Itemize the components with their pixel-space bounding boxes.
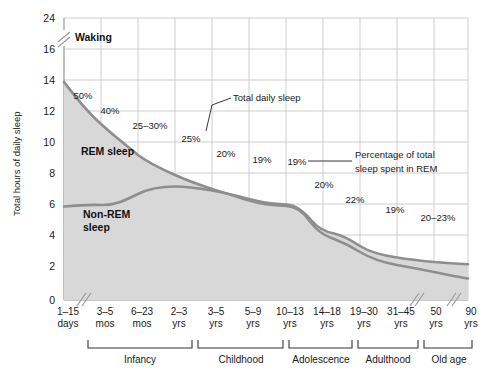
life-stage-brackets: Infancy Childhood Adolescence Adulthood … (88, 340, 472, 365)
x-tick-10-line2: yrs (429, 318, 442, 329)
x-tick-3-line2: yrs (172, 318, 185, 329)
sleep-chart-figure: Total hours of daily sleep 24 16 14 12 1… (0, 0, 496, 379)
x-tick-1-line1: 3–5 (97, 306, 114, 317)
pct-label-7: 20% (314, 179, 334, 190)
bracket-old-age (424, 340, 472, 348)
y-tick-12: 12 (43, 105, 55, 117)
pct-label-6: 19% (287, 156, 307, 167)
pct-label-3: 25% (181, 133, 201, 144)
pct-label-0: 50% (73, 90, 93, 101)
x-tick-10-line1: 50 (430, 306, 442, 317)
x-tick-2-line2: mos (133, 318, 152, 329)
rem-percentage-callout-line1: Percentage of total (355, 149, 435, 160)
y-tick-2: 2 (49, 260, 55, 272)
total-daily-sleep-callout-label: Total daily sleep (233, 92, 301, 103)
x-tick-4-line1: 3–5 (208, 306, 225, 317)
x-tick-8-line2: yrs (357, 318, 370, 329)
bracket-adolescence (289, 340, 352, 348)
pct-label-10: 20–23% (421, 212, 456, 223)
stage-label-adulthood: Adulthood (365, 354, 410, 365)
x-tick-11-line1: 90 (465, 306, 477, 317)
x-tick-6-line2: yrs (283, 318, 296, 329)
x-tick-9-line1: 31–45 (387, 306, 415, 317)
rem-sleep-region-label: REM sleep (81, 145, 134, 157)
x-axis-tick-labels: 1–15 days 3–5 mos 6–23 mos 2–3 yrs 3–5 y… (57, 306, 478, 329)
stage-label-adolescence: Adolescence (292, 354, 350, 365)
y-tick-14: 14 (43, 74, 55, 86)
pct-label-8: 22% (345, 194, 365, 205)
pct-label-4: 20% (216, 148, 236, 159)
y-tick-4: 4 (49, 229, 55, 241)
y-tick-24: 24 (43, 12, 55, 24)
pct-label-5: 19% (252, 154, 272, 165)
x-tick-9-line2: yrs (394, 318, 407, 329)
y-axis-title: Total hours of daily sleep (11, 111, 22, 216)
x-tick-7-line1: 14–18 (313, 306, 341, 317)
nonrem-sleep-region-label-line2: sleep (83, 221, 110, 233)
y-axis-tick-labels: 24 16 14 12 10 8 6 4 2 0 (43, 12, 55, 306)
x-tick-2-line1: 6–23 (131, 306, 154, 317)
x-tick-4-line2: yrs (209, 318, 222, 329)
stage-label-old-age: Old age (431, 354, 466, 365)
stage-label-infancy: Infancy (124, 354, 156, 365)
x-tick-6-line1: 10–13 (276, 306, 304, 317)
x-tick-0-line1: 1–15 (57, 306, 80, 317)
pct-label-2: 25–30% (133, 120, 168, 131)
nonrem-sleep-region-label-line1: Non-REM (83, 208, 130, 220)
rem-percentage-callout-line2: sleep spent in REM (355, 163, 437, 174)
pct-label-9: 19% (385, 204, 405, 215)
x-tick-0-line2: days (57, 318, 78, 329)
x-tick-7-line2: yrs (320, 318, 333, 329)
x-tick-1-line2: mos (96, 318, 115, 329)
bracket-childhood (198, 340, 283, 348)
bracket-adulthood (358, 340, 418, 348)
waking-region-label: Waking (75, 31, 112, 43)
bracket-infancy (88, 340, 192, 348)
chart-svg: Total hours of daily sleep 24 16 14 12 1… (0, 0, 496, 379)
x-tick-5-line1: 5–9 (245, 306, 262, 317)
x-tick-5-line2: yrs (246, 318, 259, 329)
y-tick-16: 16 (43, 43, 55, 55)
y-tick-10: 10 (43, 136, 55, 148)
y-tick-8: 8 (49, 167, 55, 179)
x-tick-3-line1: 2–3 (171, 306, 188, 317)
x-tick-8-line1: 19–30 (350, 306, 378, 317)
y-tick-0: 0 (49, 294, 55, 306)
y-axis-break-mark (58, 30, 71, 47)
stage-label-childhood: Childhood (218, 354, 263, 365)
pct-label-1: 40% (100, 105, 120, 116)
x-tick-11-line2: yrs (464, 318, 477, 329)
y-tick-6: 6 (49, 198, 55, 210)
